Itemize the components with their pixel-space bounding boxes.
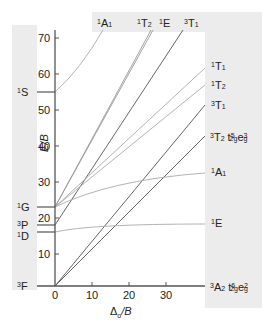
energy-level-curves	[55, 30, 205, 286]
y-tick-20: 20	[38, 212, 50, 224]
x-tick-0: 0	[52, 289, 58, 301]
term-label-3F: 3F	[17, 280, 28, 292]
right-label-3T2-config: 3T2 t52ge3g	[210, 131, 247, 143]
right-label-1E: 1E	[211, 217, 222, 229]
right-label-1T2: 1T2	[211, 79, 226, 91]
y-tick-50: 50	[38, 104, 50, 116]
top-label-1E: 1E	[159, 17, 170, 29]
x-tick-20: 20	[123, 289, 135, 301]
term-label-1G: 1G	[17, 201, 29, 213]
y-tick-10: 10	[38, 248, 50, 260]
y-tick-30: 30	[38, 176, 50, 188]
right-label-3A2-config: 3A2 t62ge2g	[210, 281, 248, 293]
x-tick-30: 30	[160, 289, 172, 301]
term-label-1D: 1D	[17, 230, 29, 242]
right-label-3T1: 3T1	[211, 99, 226, 111]
term-label-1S: 1S	[17, 86, 28, 98]
y-tick-70: 70	[38, 32, 50, 44]
x-tick-10: 10	[86, 289, 98, 301]
right-label-1T1: 1T1	[211, 60, 226, 72]
y-tick-60: 60	[38, 68, 50, 80]
y-axis-title: E/B	[38, 134, 50, 152]
right-label-1A1: 1A1	[211, 166, 226, 178]
top-label-3T1: 3T1	[184, 17, 199, 29]
axes	[37, 30, 205, 286]
top-label-1A1: 1A1	[97, 17, 112, 29]
x-axis-title: Δo/B	[110, 305, 132, 319]
top-label-1T2: 1T2	[137, 17, 152, 29]
